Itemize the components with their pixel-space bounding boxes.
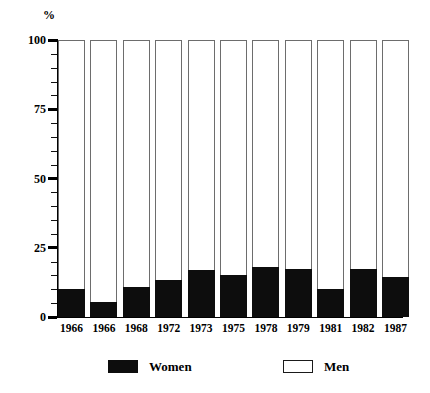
bar-segment-women xyxy=(90,302,117,317)
chart-legend: WomenMen xyxy=(0,358,430,378)
y-tick-major xyxy=(48,177,57,180)
y-tick-minor xyxy=(51,82,57,83)
y-tick-label-text: 75 xyxy=(2,103,46,115)
y-tick-minor xyxy=(51,95,57,96)
y-tick-label: 0 xyxy=(0,311,46,323)
bar-segment-women xyxy=(58,289,85,317)
y-tick-minor xyxy=(51,165,57,166)
y-tick-major xyxy=(48,108,57,111)
bar-segment-men xyxy=(58,40,85,317)
bar-segment-women xyxy=(188,270,215,317)
y-tick-minor xyxy=(51,262,57,263)
y-tick-major xyxy=(48,39,57,42)
y-tick-minor xyxy=(51,151,57,152)
y-tick-label-text: 25 xyxy=(2,242,46,254)
y-tick-label: 75 xyxy=(0,103,46,115)
legend-swatch-men xyxy=(283,360,313,373)
y-tick-minor xyxy=(51,206,57,207)
bar-segment-women xyxy=(382,277,409,317)
y-tick-minor xyxy=(51,123,57,124)
y-tick-label: 50 xyxy=(0,173,46,185)
legend-label-men: Men xyxy=(324,358,349,375)
x-axis-line xyxy=(57,317,403,318)
legend-swatch-women xyxy=(108,360,138,373)
y-tick-label-text: 0 xyxy=(2,311,46,323)
y-tick-minor xyxy=(51,137,57,138)
bar-segment-men xyxy=(382,40,409,317)
y-axis-unit-label: % xyxy=(43,9,55,21)
y-tick-label: 25 xyxy=(0,242,46,254)
y-tick-minor xyxy=(51,192,57,193)
y-tick-major xyxy=(48,246,57,249)
bar-segment-women xyxy=(252,267,279,317)
stacked-bar-chart: % 0255075100 196619661968197219731975197… xyxy=(0,0,430,393)
y-tick-minor xyxy=(51,234,57,235)
y-tick-minor xyxy=(51,275,57,276)
y-tick-minor xyxy=(51,303,57,304)
legend-label-women: Women xyxy=(149,358,192,375)
y-tick-major xyxy=(48,316,57,319)
bar-segment-men xyxy=(123,40,150,317)
bar-segment-men xyxy=(317,40,344,317)
y-tick-minor xyxy=(51,289,57,290)
x-tick-label: 1987 xyxy=(375,322,417,335)
y-tick-minor xyxy=(51,54,57,55)
y-tick-minor xyxy=(51,220,57,221)
bar-segment-women xyxy=(285,269,312,317)
y-tick-label-text: 50 xyxy=(2,173,46,185)
bar-segment-women xyxy=(155,280,182,317)
y-tick-label: 100 xyxy=(0,34,46,46)
bar-segment-men xyxy=(155,40,182,317)
y-tick-label-text: 100 xyxy=(2,34,46,46)
bar-segment-women xyxy=(220,275,247,317)
bar-segment-women xyxy=(317,289,344,317)
bar-segment-men xyxy=(90,40,117,317)
bar-segment-women xyxy=(350,269,377,317)
y-tick-minor xyxy=(51,68,57,69)
bar-segment-women xyxy=(123,287,150,317)
